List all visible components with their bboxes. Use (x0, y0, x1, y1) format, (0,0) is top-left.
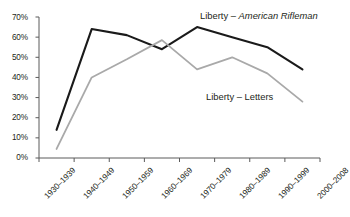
series-lines (57, 27, 303, 149)
series-line-american-rifleman (57, 27, 303, 130)
series-line-letters (57, 40, 303, 149)
